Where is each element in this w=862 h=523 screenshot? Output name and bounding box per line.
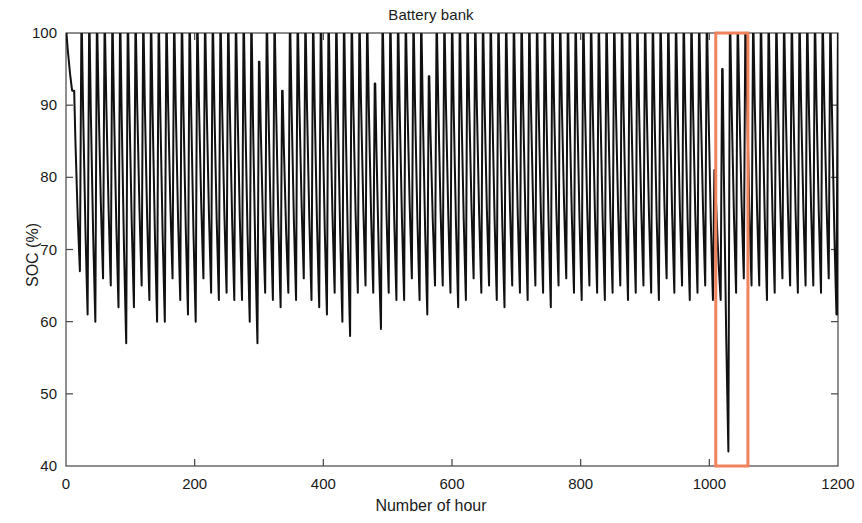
y-tick-label: 50 — [40, 385, 57, 402]
x-tick-label: 800 — [568, 475, 593, 492]
y-axis-label: SOC (%) — [24, 175, 42, 335]
x-tick-label: 1000 — [693, 475, 726, 492]
x-tick-label: 1200 — [821, 475, 854, 492]
x-tick-label: 400 — [311, 475, 336, 492]
x-axis-label: Number of hour — [0, 497, 862, 515]
soc-series-line — [66, 33, 838, 452]
y-tick-label: 80 — [40, 168, 57, 185]
y-tick-label: 60 — [40, 313, 57, 330]
y-tick-label: 90 — [40, 96, 57, 113]
x-tick-label: 600 — [439, 475, 464, 492]
chart-figure: Battery bank 020040060080010001200405060… — [0, 0, 862, 523]
x-tick-label: 200 — [182, 475, 207, 492]
y-tick-label: 40 — [40, 457, 57, 474]
plot-area: 020040060080010001200405060708090100 — [0, 0, 862, 523]
y-tick-label: 70 — [40, 241, 57, 258]
y-tick-label: 100 — [32, 24, 57, 41]
x-tick-label: 0 — [62, 475, 70, 492]
